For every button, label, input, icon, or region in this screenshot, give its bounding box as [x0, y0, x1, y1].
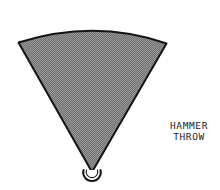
- sector-label-line-1: HAMMER: [160, 120, 218, 131]
- landing-sector-shape: [19, 31, 167, 172]
- sector-label: HAMMER THROW: [160, 120, 218, 142]
- hammer-throw-diagram: HAMMER THROW: [0, 0, 220, 190]
- sector-label-line-2: THROW: [160, 131, 218, 142]
- sector-illustration: [0, 0, 220, 190]
